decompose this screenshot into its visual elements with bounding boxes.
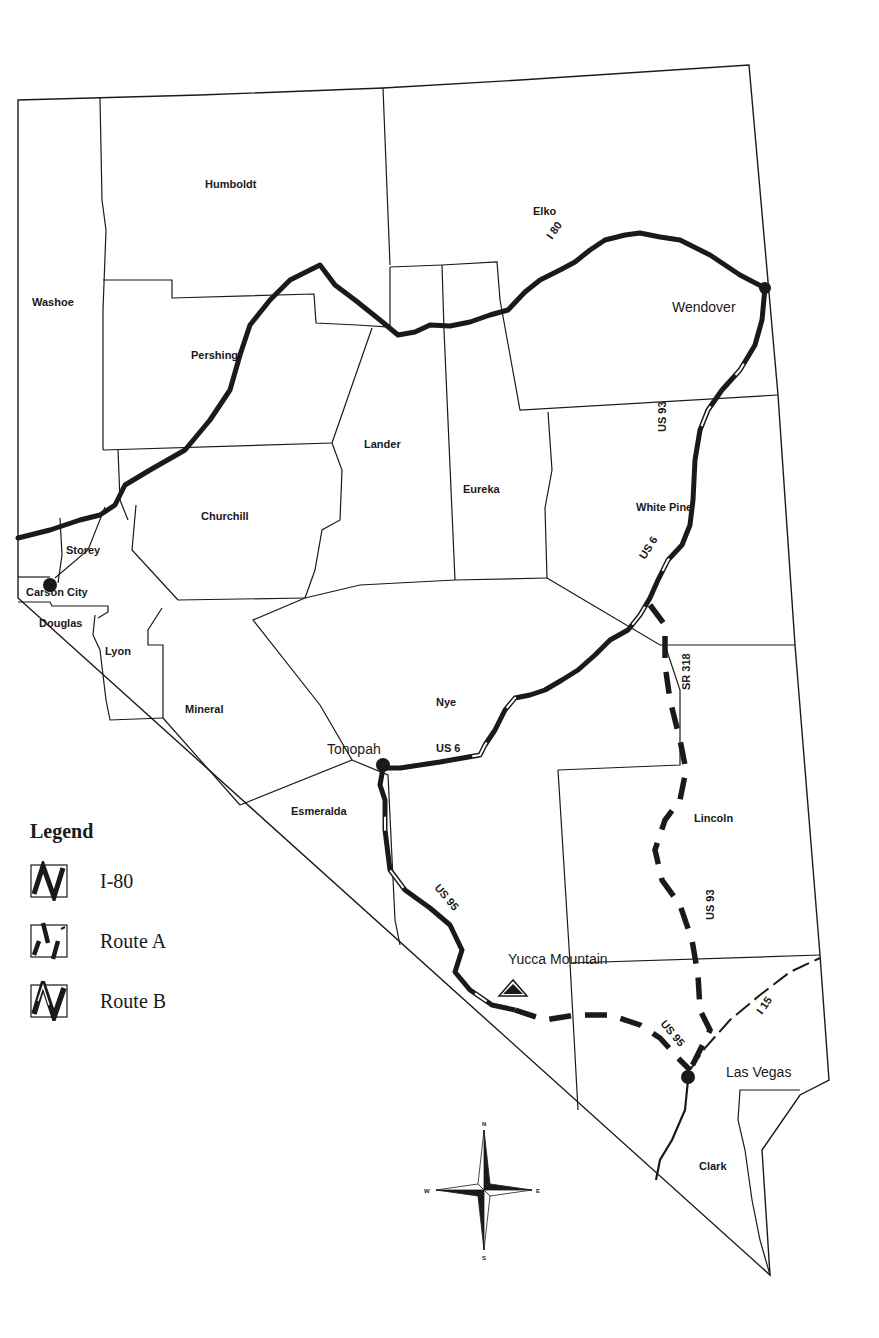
i80-swatch-icon	[30, 861, 68, 901]
road-labels: I 80US 93US 6SR 318US 6US 95US 93US 95I …	[432, 219, 774, 1048]
route-a-swatch-icon	[30, 921, 68, 961]
county-label-mineral: Mineral	[185, 703, 224, 715]
county-label-carson-city: Carson City	[26, 586, 89, 598]
city-label-tonopah: Tonopah	[327, 741, 381, 757]
road-label-sr-318: SR 318	[680, 653, 692, 690]
wendover-marker	[759, 282, 771, 294]
county-label-esmeralda: Esmeralda	[291, 805, 348, 817]
county-label-douglas: Douglas	[39, 617, 82, 629]
las-vegas-marker	[681, 1070, 695, 1084]
tonopah-marker	[376, 758, 390, 772]
city-label-yucca-mountain: Yucca Mountain	[508, 951, 608, 967]
city-label-wendover: Wendover	[672, 299, 736, 315]
nevada-route-map: HumboldtElkoWashoePershingLanderEurekaWh…	[0, 0, 879, 1338]
county-label-nye: Nye	[436, 696, 456, 708]
legend: Legend I-80 Route A Route B	[30, 820, 166, 1039]
county-label-pershing: Pershing	[191, 349, 238, 361]
county-label-clark: Clark	[699, 1160, 727, 1172]
route-a-us95	[515, 1010, 690, 1070]
compass-east: E	[536, 1188, 540, 1194]
legend-label-i80: I-80	[100, 870, 133, 893]
compass-south: S	[482, 1255, 486, 1261]
county-label-humboldt: Humboldt	[205, 178, 257, 190]
county-label-washoe: Washoe	[32, 296, 74, 308]
road-label-us-93: US 93	[704, 889, 716, 920]
county-label-storey: Storey	[66, 544, 101, 556]
legend-title: Legend	[30, 820, 166, 843]
i15-road	[690, 958, 820, 1070]
county-label-elko: Elko	[533, 205, 557, 217]
county-label-lincoln: Lincoln	[694, 812, 733, 824]
compass-north: N	[482, 1121, 486, 1127]
county-label-lander: Lander	[364, 438, 401, 450]
compass-west: W	[424, 1188, 430, 1194]
yucca-mountain-marker	[499, 980, 527, 996]
county-label-eureka: Eureka	[463, 483, 501, 495]
i80-route	[18, 233, 765, 538]
legend-label-route-a: Route A	[100, 930, 166, 953]
city-label-las-vegas: Las Vegas	[726, 1064, 791, 1080]
road-label-us-6: US 6	[637, 534, 660, 561]
road-label-us-95: US 95	[432, 882, 461, 913]
legend-item-route-b: Route B	[30, 979, 166, 1023]
county-label-white-pine: White Pine	[636, 501, 692, 513]
legend-item-i80: I-80	[30, 859, 166, 903]
city-labels: WendoverTonopahYucca MountainLas Vegas	[327, 299, 791, 1080]
legend-item-route-a: Route A	[30, 919, 166, 963]
legend-label-route-b: Route B	[100, 990, 166, 1013]
road-label-i-80: I 80	[544, 219, 564, 241]
compass-rose: N S E W	[424, 1121, 540, 1261]
us95-south-road	[656, 1080, 688, 1180]
state-outline	[18, 65, 829, 1275]
road-label-us-6: US 6	[436, 742, 460, 754]
route-b-swatch-icon	[30, 981, 68, 1021]
road-label-us-93: US 93	[656, 401, 668, 432]
county-label-churchill: Churchill	[201, 510, 249, 522]
county-label-lyon: Lyon	[105, 645, 131, 657]
